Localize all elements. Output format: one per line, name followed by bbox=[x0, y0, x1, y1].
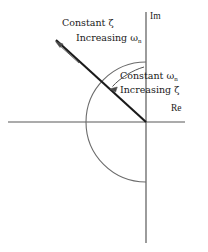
imaginary-axis-label: Im bbox=[150, 11, 161, 22]
increasing-omega-n-label: Increasing ωn bbox=[76, 32, 141, 45]
increasing-omega-n-text: Increasing ω bbox=[76, 32, 138, 43]
constant-omega-n-label: Constant ωn bbox=[120, 70, 178, 83]
constant-zeta-label: Constant ζ bbox=[62, 17, 114, 29]
constant-zeta-text: Constant ζ bbox=[62, 17, 114, 28]
increasing-zeta-text: Increasing ζ bbox=[120, 84, 179, 95]
increasing-zeta-label: Increasing ζ bbox=[120, 84, 179, 96]
constant-omega-n-subscript: n bbox=[174, 75, 178, 83]
s-plane-diagram: Im Re Constant ζ Increasing ωn Constant … bbox=[0, 0, 208, 252]
increasing-omega-n-subscript: n bbox=[138, 37, 142, 45]
real-axis-label: Re bbox=[171, 103, 182, 114]
constant-omega-n-text: Constant ω bbox=[120, 70, 174, 81]
